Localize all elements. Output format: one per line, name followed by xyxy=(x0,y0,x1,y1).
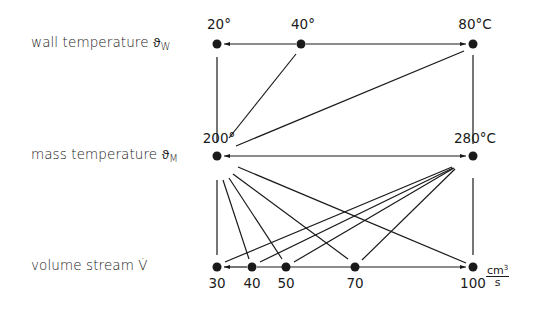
node-vol-100 xyxy=(469,263,478,272)
edge-200-40 xyxy=(223,180,249,259)
label-text: wall temperature ϑ xyxy=(31,34,160,50)
edge-280-30 xyxy=(225,167,452,262)
node-wall-20 xyxy=(213,40,222,49)
label-volume-stream: volume stream V̇ xyxy=(31,257,148,273)
edge-200-70 xyxy=(233,174,348,259)
value-vol-30: 30 xyxy=(208,275,225,291)
value-wall-40: 40° xyxy=(291,16,315,32)
value-mass-200: 200° xyxy=(203,130,236,146)
node-vol-30 xyxy=(213,263,222,272)
edge-80-200 xyxy=(236,51,464,146)
value-vol-40: 40 xyxy=(243,275,260,291)
label-subscript: W xyxy=(160,41,170,52)
volume-unit: cm3 s xyxy=(486,263,509,288)
label-text: mass temperature ϑ xyxy=(31,146,169,162)
node-wall-40 xyxy=(297,40,306,49)
node-vol-40 xyxy=(248,263,257,272)
label-text: volume stream V̇ xyxy=(31,257,148,273)
node-mass-200 xyxy=(213,152,222,161)
label-subscript: M xyxy=(169,153,178,164)
unit-denominator: s xyxy=(486,277,509,288)
value-vol-100: 100 xyxy=(460,275,486,291)
node-mass-280 xyxy=(469,152,478,161)
value-wall-80: 80°C xyxy=(458,16,491,32)
node-wall-80 xyxy=(469,40,478,49)
node-vol-50 xyxy=(282,263,291,272)
node-vol-70 xyxy=(351,263,360,272)
label-wall-temperature: wall temperature ϑW xyxy=(31,34,170,52)
label-mass-temperature: mass temperature ϑM xyxy=(31,146,178,164)
value-wall-20: 20° xyxy=(207,16,231,32)
unit-exponent: 3 xyxy=(504,264,508,272)
value-vol-50: 50 xyxy=(277,275,294,291)
unit-numerator: cm3 xyxy=(486,263,509,277)
value-vol-70: 70 xyxy=(346,275,363,291)
value-mass-280: 280°C xyxy=(454,130,496,146)
